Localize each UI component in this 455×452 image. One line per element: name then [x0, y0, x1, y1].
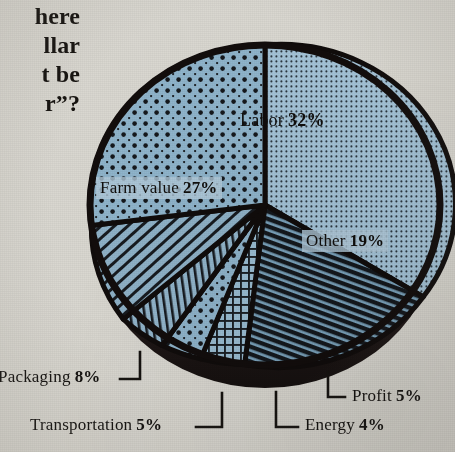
- slice-callout-profit-text: Profit: [352, 386, 392, 405]
- slice-callout-transportation-text: Transportation: [30, 415, 132, 434]
- slice-label-other-pct: 19%: [350, 231, 385, 250]
- slice-label-farm-value-text: Farm value: [100, 178, 179, 197]
- slice-callout-transportation: Transportation5%: [30, 415, 162, 435]
- slice-label-other: Other19%: [302, 230, 388, 252]
- slice-callout-profit-pct: 5%: [396, 386, 422, 405]
- slice-label-other-text: Other: [306, 231, 346, 250]
- slice-label-farm-value: Farm value27%: [96, 177, 222, 199]
- body-copy-line-4: r”?: [0, 89, 86, 118]
- slice-callout-packaging-pct: 8%: [75, 367, 101, 386]
- slice-callout-energy: Energy4%: [305, 415, 385, 435]
- slice-label-farm-value-pct: 27%: [183, 178, 218, 197]
- slice-callout-energy-text: Energy: [305, 415, 355, 434]
- slice-callout-transportation-pct: 5%: [136, 415, 162, 434]
- body-copy-line-1: here: [0, 2, 86, 31]
- slice-callout-energy-pct: 4%: [359, 415, 385, 434]
- body-copy-line-2: llar: [0, 31, 86, 60]
- slice-label-labor: Labor32%: [240, 110, 325, 131]
- slice-callout-packaging-text: Packaging: [0, 367, 71, 386]
- body-copy-line-3: t be: [0, 60, 86, 89]
- slice-callout-packaging: Packaging8%: [0, 367, 101, 387]
- slice-callout-profit: Profit5%: [352, 386, 422, 406]
- body-copy-fragment: here llar t be r”?: [0, 2, 86, 118]
- slice-label-labor-pct: 32%: [288, 110, 325, 130]
- slice-label-labor-text: Labor: [240, 110, 284, 130]
